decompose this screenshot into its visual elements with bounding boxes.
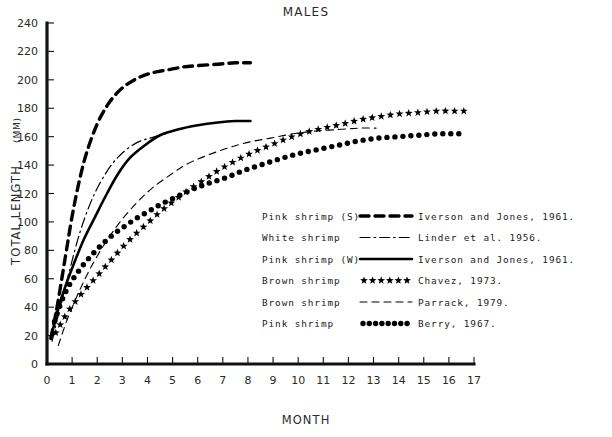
dot-marker [121, 224, 126, 229]
dot-marker [400, 134, 405, 139]
x-tick-label: 6 [194, 374, 201, 387]
dot-marker [368, 136, 373, 141]
dot-marker [379, 321, 384, 326]
dot-marker [290, 152, 295, 157]
legend-label: Pink shrimp (S) [262, 211, 360, 222]
legend-citation: Iverson and Jones, 1961. [418, 211, 575, 222]
x-tick-label: 4 [144, 374, 151, 387]
legend-label: Brown shrimp [262, 275, 341, 286]
dot-marker [282, 155, 287, 160]
dot-marker [367, 321, 372, 326]
dot-marker [54, 311, 59, 316]
legend-label: Brown shrimp [262, 297, 341, 308]
x-tick-label: 2 [94, 374, 101, 387]
x-tick-label: 5 [169, 374, 176, 387]
x-tick-label: 15 [417, 374, 431, 387]
dot-marker [384, 135, 389, 140]
y-tick-label: 0 [31, 358, 38, 371]
dot-marker [392, 321, 397, 326]
y-tick-label: 160 [17, 131, 38, 144]
dot-marker [177, 193, 182, 198]
y-tick-label: 240 [17, 17, 38, 30]
legend-label: Pink shrimp [262, 318, 334, 329]
dot-marker [237, 169, 242, 174]
dot-marker [275, 157, 280, 162]
dot-marker [57, 304, 62, 309]
dot-marker [229, 173, 234, 178]
dot-marker [424, 132, 429, 137]
dot-marker [386, 321, 391, 326]
x-tick-label: 11 [316, 374, 330, 387]
dot-marker [373, 321, 378, 326]
x-tick-label: 14 [392, 374, 406, 387]
y-tick-label: 40 [24, 301, 38, 314]
y-tick-label: 60 [24, 273, 38, 286]
dot-marker [214, 178, 219, 183]
x-tick-label: 12 [341, 374, 355, 387]
x-tick-label: 16 [442, 374, 456, 387]
dot-marker [448, 131, 453, 136]
dot-marker [337, 142, 342, 147]
dot-marker [345, 141, 350, 146]
y-tick-label: 200 [17, 74, 38, 87]
dot-marker [353, 139, 358, 144]
dot-marker [135, 215, 140, 220]
dot-marker [142, 211, 147, 216]
dot-marker [97, 244, 102, 249]
x-tick-label: 9 [270, 374, 277, 387]
legend-citation: Chavez, 1973. [418, 275, 503, 286]
dot-marker [398, 321, 403, 326]
dot-marker [103, 239, 108, 244]
legend-label: Pink shrimp (W) [262, 254, 360, 265]
dot-marker [76, 268, 81, 273]
dot-marker [155, 203, 160, 208]
x-tick-label: 13 [367, 374, 381, 387]
dot-marker [306, 149, 311, 154]
dot-marker [81, 262, 86, 267]
x-axis-title: MONTH [282, 413, 331, 427]
y-tick-label: 180 [17, 102, 38, 115]
legend-citation: Iverson and Jones, 1961. [418, 254, 575, 265]
dot-marker [63, 289, 68, 294]
dot-marker [313, 147, 318, 152]
x-tick-label: 10 [291, 374, 305, 387]
growth-curve-figure: MALES TOTAL LENGTH (MM) MONTH 0204060801… [0, 0, 612, 437]
legend-citation: Parrack, 1979. [418, 297, 510, 308]
dot-marker [128, 219, 133, 224]
dot-marker [360, 137, 365, 142]
x-tick-label: 1 [69, 374, 76, 387]
y-tick-label: 120 [17, 188, 38, 201]
dot-marker [115, 229, 120, 234]
legend-citation: Linder et al. 1956. [418, 232, 542, 243]
dot-marker [149, 207, 154, 212]
dot-marker [440, 131, 445, 136]
dot-marker [199, 183, 204, 188]
dot-marker [244, 167, 249, 172]
dot-marker [392, 134, 397, 139]
dot-marker [184, 189, 189, 194]
y-tick-label: 20 [24, 330, 38, 343]
dot-marker [91, 250, 96, 255]
dot-marker [298, 150, 303, 155]
dot-marker [52, 319, 57, 324]
dot-marker [321, 146, 326, 151]
dot-marker [432, 131, 437, 136]
legend-row: Pink shrimp (W)Iverson and Jones, 1961. [262, 254, 575, 265]
dot-marker [71, 275, 76, 280]
dot-marker [170, 196, 175, 201]
dot-marker [86, 256, 91, 261]
dot-marker [376, 135, 381, 140]
dot-marker [408, 133, 413, 138]
dot-marker [222, 175, 227, 180]
x-tick-label: 17 [467, 374, 481, 387]
dot-marker [163, 199, 168, 204]
dot-marker [360, 321, 365, 326]
dot-marker [329, 144, 334, 149]
dot-marker [192, 186, 197, 191]
dot-marker [67, 282, 72, 287]
dot-marker [404, 321, 409, 326]
dot-marker [416, 133, 421, 138]
y-tick-label: 80 [24, 244, 38, 257]
dot-marker [259, 162, 264, 167]
y-tick-label: 220 [17, 45, 38, 58]
